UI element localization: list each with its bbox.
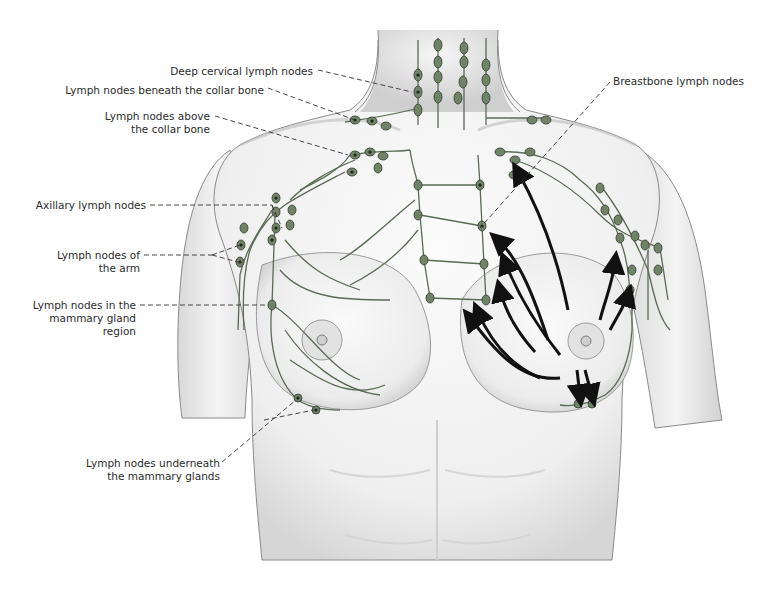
lymph-node-core: [274, 196, 277, 199]
lymph-node: [596, 183, 604, 193]
anatomy-diagram: Deep cervical lymph nodes Lymph nodes be…: [0, 0, 775, 597]
lymph-node: [601, 205, 609, 215]
lymph-node-core: [416, 90, 419, 93]
label-line: Breastbone lymph nodes: [613, 75, 744, 88]
label-line: Lymph nodes in the: [20, 299, 136, 312]
lymph-node: [378, 152, 388, 160]
lymph-node-core: [416, 73, 419, 76]
lymph-node: [626, 285, 634, 295]
lymph-node: [374, 163, 382, 173]
lymph-node: [541, 116, 551, 124]
lymph-node: [240, 223, 248, 233]
lymph-node: [268, 300, 276, 310]
lymph-node: [510, 156, 520, 164]
lymph-node: [525, 148, 535, 156]
lymph-node-core: [368, 150, 371, 153]
label-line: the mammary glands: [60, 470, 220, 483]
lymph-node: [434, 56, 442, 68]
lymph-node: [654, 265, 662, 275]
lymph-node-core: [478, 183, 481, 186]
label-line: Lymph nodes beneath the collar bone: [40, 84, 264, 97]
lymph-node: [574, 400, 582, 408]
label-line: Lymph nodes of: [30, 249, 140, 262]
label-line: Axillary lymph nodes: [30, 199, 146, 212]
lymph-node-core: [296, 396, 299, 399]
label-lymph-nodes-mammary-gland-region: Lymph nodes in the mammary gland region: [20, 299, 136, 338]
lymph-node: [588, 400, 596, 408]
lymph-node: [616, 233, 624, 243]
lymph-node-core: [350, 170, 353, 173]
lymph-node: [460, 42, 468, 54]
label-lymph-nodes-of-the-arm: Lymph nodes of the arm: [30, 249, 140, 275]
lymph-node: [631, 231, 639, 241]
label-lymph-nodes-underneath-mammary-glands: Lymph nodes underneath the mammary gland…: [60, 457, 220, 483]
label-line: Deep cervical lymph nodes: [140, 65, 313, 78]
lymph-node: [614, 215, 622, 225]
lymph-node-core: [239, 243, 242, 246]
lymph-node: [482, 74, 490, 86]
lymph-node: [628, 265, 636, 275]
lymph-node: [527, 116, 537, 124]
lymph-node-core: [314, 408, 317, 411]
lymph-node: [420, 255, 428, 265]
left-nipple: [581, 336, 591, 346]
lymph-node: [434, 39, 442, 51]
label-lymph-nodes-above-collar-bone: Lymph nodes above the collar bone: [90, 110, 210, 136]
lymph-node-core: [353, 153, 356, 156]
lymph-node: [414, 104, 422, 116]
label-line: Lymph nodes above: [90, 110, 210, 123]
lymph-node-core: [270, 238, 273, 241]
label-line: the collar bone: [90, 123, 210, 136]
label-axillary-lymph-nodes: Axillary lymph nodes: [30, 199, 146, 212]
lymph-node: [482, 92, 490, 104]
lymph-node: [454, 92, 462, 104]
lymph-node: [654, 243, 662, 253]
lymph-node: [434, 91, 442, 103]
lymph-node: [414, 180, 422, 190]
lymph-node-core: [274, 226, 277, 229]
right-nipple: [317, 335, 327, 345]
label-breastbone-lymph-nodes: Breastbone lymph nodes: [613, 75, 744, 88]
lymph-node: [434, 71, 442, 83]
lymph-node: [286, 220, 294, 230]
lymph-node-core: [238, 260, 241, 263]
label-line: Lymph nodes underneath: [60, 457, 220, 470]
lymph-node: [459, 76, 467, 88]
lymph-node: [288, 205, 296, 215]
lymph-node: [495, 148, 505, 156]
lymph-node: [509, 171, 519, 179]
lymph-node: [381, 122, 391, 130]
lymph-node: [482, 59, 490, 71]
lymph-node: [414, 210, 422, 220]
lymph-node: [480, 259, 488, 269]
lymph-node: [641, 240, 649, 250]
lymph-node: [426, 293, 434, 303]
label-line: region: [20, 325, 136, 338]
label-deep-cervical-lymph-nodes: Deep cervical lymph nodes: [140, 65, 313, 78]
lymph-node: [482, 295, 490, 305]
label-lymph-nodes-beneath-collar-bone: Lymph nodes beneath the collar bone: [40, 84, 264, 97]
lymph-node-core: [370, 119, 373, 122]
label-line: mammary gland: [20, 312, 136, 325]
label-line: the arm: [30, 262, 140, 275]
lymph-node: [460, 56, 468, 68]
